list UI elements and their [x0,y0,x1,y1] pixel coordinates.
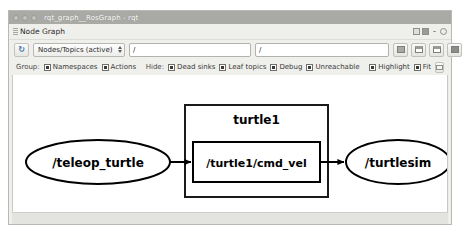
graph-canvas[interactable]: turtle1 /teleop_turtle /turtle1/cmd_ [12,75,448,212]
plugin-header: Node Graph - [9,24,451,40]
group-label: Group: [16,63,40,71]
save-dot-icon [433,46,441,53]
load-dot-button[interactable] [447,43,462,57]
hide-label: Hide: [146,63,164,71]
checkbox-icon[interactable] [102,64,109,71]
plugin-minimize-button[interactable]: - [433,28,436,36]
checkbox-leaf-topics[interactable]: Leaf topics [219,63,266,71]
dock-float-icon[interactable] [413,28,420,35]
refresh-icon[interactable]: ↻ [14,43,29,57]
checkbox-fit[interactable]: Fit [414,63,431,71]
checkbox-fit-label: Fit [423,63,431,71]
chevron-updown-icon[interactable] [115,46,122,53]
fit-in-view-button[interactable] [393,43,408,57]
checkbox-actions-label: Actions [111,63,137,71]
checkbox-unreachable-label: Unreachable [315,63,359,71]
checkbox-dead-sinks-label: Dead sinks [177,63,215,71]
graph-toolbar: ↻ Nodes/Topics (active) / / [9,40,451,59]
graph-node-turtlesim[interactable]: /turtlesim [346,140,447,184]
window-maximize-button[interactable] [22,15,28,21]
graph-type-select[interactable]: Nodes/Topics (active) [33,43,125,57]
node-label-turtlesim: /turtlesim [365,156,431,170]
auto-fit-icon [436,65,443,70]
checkbox-debug-label: Debug [279,63,302,71]
window-title-bar[interactable]: rqt_graph__RosGraph - rqt [9,11,451,24]
close-icon[interactable] [440,28,447,35]
checkbox-icon[interactable] [369,64,376,71]
checkbox-unreachable[interactable]: Unreachable [306,63,359,71]
checkbox-icon[interactable] [270,64,277,71]
checkbox-icon[interactable] [219,64,226,71]
plugin-title: Node Graph [20,27,65,36]
window-title: rqt_graph__RosGraph - rqt [44,14,138,22]
screen-root: rqt_graph__RosGraph - rqt Node Graph - ↻… [0,0,469,237]
window-controls[interactable] [13,15,37,21]
fit-in-view-icon [397,46,405,53]
save-as-dot-button[interactable] [429,43,444,57]
checkbox-icon[interactable] [168,64,175,71]
plugin-dock-controls[interactable]: - [413,28,447,36]
application-window: rqt_graph__RosGraph - rqt Node Graph - ↻… [8,10,452,225]
save-image-icon [415,46,423,53]
checkbox-dead-sinks[interactable]: Dead sinks [168,63,215,71]
checkbox-icon[interactable] [44,64,51,71]
checkbox-debug[interactable]: Debug [270,63,302,71]
checkbox-icon[interactable] [414,64,421,71]
graph-type-value: Nodes/Topics (active) [38,46,115,54]
checkbox-leaf-topics-label: Leaf topics [228,63,266,71]
auto-fit-button[interactable] [435,62,444,73]
node-label-teleop-turtle: /teleop_turtle [52,156,144,171]
exclude-filter-value: / [259,46,261,54]
checkbox-icon[interactable] [306,64,313,71]
cluster-label-turtle1: turtle1 [233,113,280,127]
graph-filter-bar: Group: Namespaces Actions Hide: Dead sin… [9,59,451,75]
window-minimize-button[interactable] [13,15,19,21]
status-strip [12,212,448,224]
include-filter-input[interactable]: / [129,43,251,57]
graph-node-teleop-turtle[interactable]: /teleop_turtle [26,140,170,184]
checkbox-highlight-label: Highlight [378,63,410,71]
window-close-button[interactable] [31,15,37,21]
plugin-title-group[interactable]: Node Graph [13,27,65,36]
checkbox-namespaces[interactable]: Namespaces [44,63,98,71]
ros-node-graph[interactable]: turtle1 /teleop_turtle /turtle1/cmd_ [13,75,447,209]
checkbox-highlight[interactable]: Highlight [369,63,410,71]
exclude-filter-input[interactable]: / [255,43,389,57]
refresh-glyph: ↻ [18,46,25,54]
dock-settings-icon[interactable] [422,28,429,35]
topic-label-turtle1-cmd-vel: /turtle1/cmd_vel [206,157,306,170]
drag-grip-icon[interactable] [13,28,18,36]
graph-topic-turtle1-cmd-vel[interactable]: /turtle1/cmd_vel [193,142,320,182]
save-as-image-button[interactable] [411,43,426,57]
toolbar-action-buttons [393,43,462,57]
checkbox-actions[interactable]: Actions [102,63,137,71]
include-filter-value: / [133,46,135,54]
graph-canvas-area: turtle1 /teleop_turtle /turtle1/cmd_ [9,75,451,224]
load-dot-icon [451,46,459,53]
checkbox-namespaces-label: Namespaces [53,63,98,71]
